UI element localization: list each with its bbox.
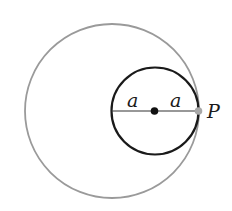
center-dot xyxy=(151,107,159,115)
left-radius-label: a xyxy=(127,89,138,111)
point-p-dot xyxy=(195,107,203,115)
diagram-canvas: a a P xyxy=(0,0,232,211)
right-radius-label: a xyxy=(170,89,181,111)
point-p-label: P xyxy=(206,100,221,122)
